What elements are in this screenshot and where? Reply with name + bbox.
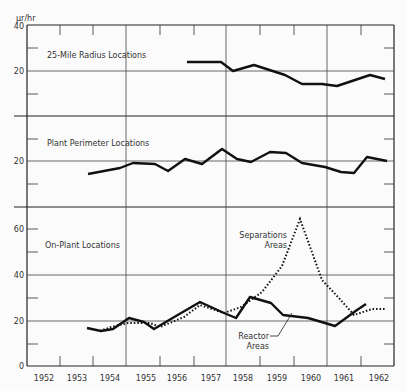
series-reactor-areas — [87, 297, 366, 331]
series-25-mile — [187, 62, 385, 86]
chart: µr/hr 40 20 20 — [0, 0, 407, 391]
x-label: 1960 — [301, 374, 321, 383]
x-label: 1954 — [100, 374, 120, 383]
y-label-p3-0: 0 — [19, 362, 24, 371]
frame — [14, 25, 394, 366]
x-axis-labels: 1952 1953 1954 1955 1956 1957 1958 1959 … — [34, 374, 389, 383]
series-plant-perimeter — [88, 149, 387, 174]
annotation-separations: Separations — [239, 231, 287, 240]
annotation-reactor-areas: Areas — [246, 342, 269, 351]
gridlines — [27, 25, 394, 366]
y-label-p3-40: 40 — [14, 271, 24, 280]
x-label: 1959 — [267, 374, 287, 383]
panel-title-on-plant: On-Plant Locations — [45, 241, 120, 250]
x-label: 1952 — [34, 374, 54, 383]
ticks — [27, 25, 394, 366]
x-label: 1956 — [167, 374, 187, 383]
y-label-p1-20: 20 — [14, 67, 24, 76]
y-label-p3-60: 60 — [14, 225, 24, 234]
annotation-separations-areas: Areas — [264, 241, 287, 250]
x-label: 1962 — [369, 374, 389, 383]
x-label: 1955 — [136, 374, 156, 383]
panel-title-plant-perimeter: Plant Perimeter Locations — [47, 139, 149, 148]
y-label-p1-40: 40 — [14, 22, 24, 31]
y-label-p2-20: 20 — [14, 157, 24, 166]
x-label: 1953 — [67, 374, 87, 383]
annotation-reactor: Reactor — [238, 332, 269, 341]
panel-title-25-mile: 25-Mile Radius Locations — [47, 51, 146, 60]
x-label: 1961 — [334, 374, 354, 383]
x-label: 1958 — [233, 374, 253, 383]
y-label-p3-20: 20 — [14, 317, 24, 326]
x-label: 1957 — [201, 374, 221, 383]
